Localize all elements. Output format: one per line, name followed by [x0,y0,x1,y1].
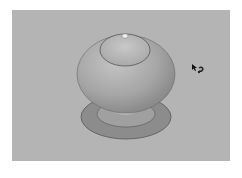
knob-top-cap [100,34,150,66]
knob-top-highlight [122,34,128,38]
model-viewport[interactable]: 3D model viewport [12,10,230,161]
knob-model[interactable] [12,10,230,161]
orbit-cursor-icon [192,64,203,73]
